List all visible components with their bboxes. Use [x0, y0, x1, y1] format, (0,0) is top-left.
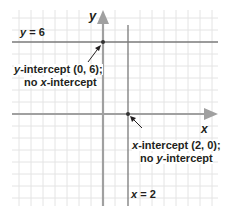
- x-intercept-annotation-line1: x-intercept (2, 0);: [132, 140, 221, 151]
- label-x-equals-2: x = 2: [131, 189, 156, 200]
- x-intercept-point: [126, 112, 130, 116]
- y-intercept-annotation-line1: y-intercept (0, 6);: [14, 64, 103, 75]
- x-axis-arrow-icon: [204, 108, 218, 120]
- y-axis-arrow-icon: [97, 10, 109, 24]
- hline-rest: = 6: [26, 26, 45, 38]
- xint-rest: -intercept (2, 0);: [138, 139, 221, 151]
- y-intercept-annotation-line2: no x-intercept: [24, 77, 97, 88]
- yint-no-rest: -intercept: [47, 76, 97, 88]
- vline-rest: = 2: [137, 188, 156, 200]
- xint-no-rest: -intercept: [163, 152, 213, 164]
- yint-rest: -intercept (0, 6);: [20, 63, 103, 75]
- y-axis-label: y: [89, 9, 96, 22]
- xint-no-pre: no: [140, 152, 157, 164]
- x-axis-label: x: [201, 123, 208, 135]
- x-intercept-annotation-line2: no y-intercept: [140, 153, 213, 164]
- y-intercept-point: [101, 40, 105, 44]
- label-y-equals-6: y = 6: [20, 27, 45, 38]
- yint-no-pre: no: [24, 76, 41, 88]
- grid: [12, 10, 218, 206]
- y-intercept-pointer-arrow-icon: [95, 45, 101, 51]
